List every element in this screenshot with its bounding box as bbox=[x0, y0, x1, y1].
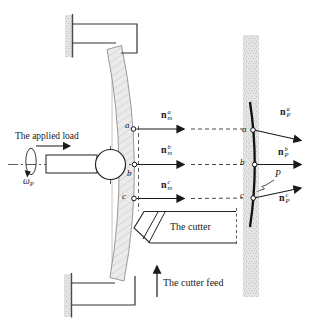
point-a-right bbox=[251, 128, 256, 133]
surface-p-label: P bbox=[275, 169, 281, 179]
point-c-right-label: c bbox=[240, 190, 244, 200]
applied-load-label: The applied load bbox=[15, 131, 79, 141]
contact-points bbox=[131, 127, 257, 201]
vector-np-c-label: n cP bbox=[279, 192, 290, 204]
cutter-label: The cutter bbox=[170, 221, 211, 232]
point-c-left bbox=[132, 196, 137, 201]
pressing-ball bbox=[96, 150, 126, 180]
top-bracket bbox=[73, 24, 138, 53]
rotation-symbol bbox=[25, 148, 37, 177]
surface-label-leader bbox=[258, 180, 275, 192]
point-b-right bbox=[252, 162, 257, 167]
load-shaft bbox=[46, 155, 97, 173]
point-a-right-label: a bbox=[242, 124, 247, 134]
vector-nm-b-label: n bm bbox=[161, 144, 172, 156]
cutter-feed-label: The cutter feed bbox=[163, 277, 224, 288]
bottom-bracket bbox=[72, 276, 135, 305]
point-b-left bbox=[132, 162, 137, 167]
point-a-left bbox=[131, 127, 136, 132]
vector-nm-a-label: n am bbox=[161, 109, 172, 121]
vector-np-b-label: n bP bbox=[278, 146, 289, 158]
omega-label: ωP bbox=[23, 176, 34, 187]
point-b-left-label: b bbox=[127, 168, 132, 178]
figure-canvas: The applied load ωP a b c a b c n am n b… bbox=[0, 0, 319, 332]
point-c-left-label: c bbox=[122, 191, 126, 201]
vector-np-a-label: n aP bbox=[280, 106, 291, 118]
omega-subscript: P bbox=[30, 180, 34, 187]
machining-diagram bbox=[0, 0, 319, 332]
omega-symbol: ω bbox=[23, 176, 30, 186]
vector-nm-c-label: n cm bbox=[161, 179, 172, 191]
point-a-left-label: a bbox=[125, 120, 130, 130]
top-wall bbox=[65, 14, 73, 58]
point-c-right bbox=[251, 196, 256, 201]
point-b-right-label: b bbox=[240, 157, 245, 167]
right-normal-arrows bbox=[254, 130, 301, 198]
bottom-wall bbox=[64, 273, 72, 318]
